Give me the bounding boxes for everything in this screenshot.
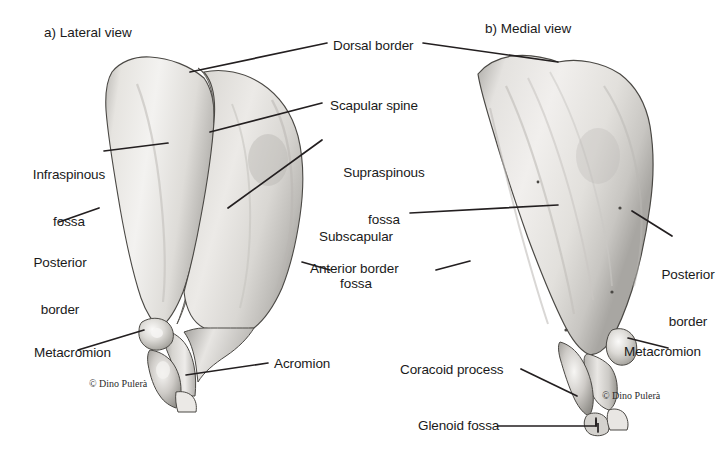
- label-anterior-border: Anterior border: [310, 261, 399, 277]
- subscapular-fossa-surface: [478, 55, 653, 354]
- label-acromion: Acromion: [274, 356, 330, 372]
- label-dorsal-border: Dorsal border: [333, 38, 414, 54]
- label-subscapular-fossa-line1: Subscapular: [307, 229, 405, 245]
- label-posterior-border-right-line1: Posterior: [652, 267, 724, 283]
- label-posterior-border-right: Posterior border: [652, 236, 724, 360]
- label-supraspinous-fossa-line1: Supraspinous: [330, 165, 438, 181]
- leader-glenoid-fossa-path: [498, 420, 596, 426]
- label-infraspinous-fossa-line1: Infraspinous: [20, 167, 118, 183]
- label-scapular-spine: Scapular spine: [330, 98, 418, 114]
- label-metacromion-left: Metacromion: [34, 345, 111, 361]
- label-coracoid-process: Coracoid process: [400, 362, 503, 378]
- label-posterior-border-right-line2: border: [652, 314, 724, 330]
- medial-inferior-tip: [607, 409, 628, 430]
- label-posterior-border-left-line1: Posterior: [15, 255, 105, 271]
- scapula-anatomy-figure: a) Lateral view b) Medial view Dorsal bo…: [0, 0, 727, 449]
- credit-right: © Dino Pulerà: [602, 390, 660, 401]
- credit-left: © Dino Pulerà: [89, 378, 147, 389]
- label-subscapular-fossa: Subscapular fossa: [307, 198, 405, 322]
- medial-scapula-bone: [478, 55, 653, 435]
- label-posterior-border-left-line2: border: [15, 302, 105, 318]
- label-metacromion-right: Metacromion: [624, 344, 701, 360]
- panel-title-lateral: a) Lateral view: [44, 25, 132, 40]
- leader-anterior-border-right: [436, 261, 470, 270]
- label-subscapular-fossa-line2: fossa: [307, 276, 405, 292]
- label-posterior-border-left: Posterior border: [15, 224, 105, 348]
- label-glenoid-fossa: Glenoid fossa: [418, 418, 499, 434]
- panel-title-medial: b) Medial view: [485, 21, 571, 36]
- leader-dorsal-border-left: [190, 43, 327, 72]
- leader-dorsal-border-right: [423, 43, 558, 62]
